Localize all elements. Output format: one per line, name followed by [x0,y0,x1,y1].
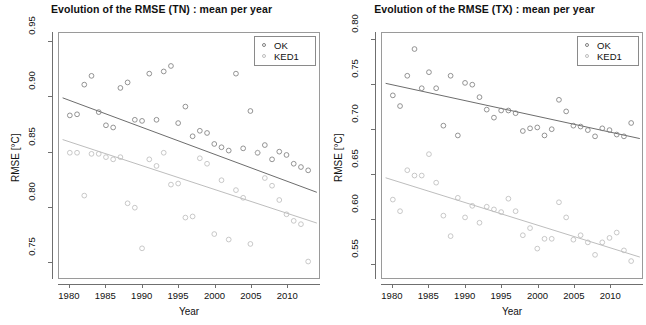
data-point-ked1 [427,152,432,157]
x-tick-label: 2000 [527,290,548,301]
data-point-ok [154,117,159,122]
data-point-ok [448,73,453,78]
y-tick-label: 0.70 [349,99,360,129]
data-point-ked1 [434,180,439,185]
data-point-ok [520,129,525,134]
data-point-ked1 [226,237,231,242]
data-point-ok [226,148,231,153]
data-point-ok [132,117,137,122]
data-point-ked1 [197,156,202,161]
data-point-ok [82,82,87,87]
data-point-ked1 [506,196,511,201]
data-point-ok [270,157,275,162]
y-tick [371,39,375,40]
y-tick-label: 0.85 [26,121,37,151]
y-axis-title-tn: RMSE [°C] [10,133,21,181]
plot-area-tn [58,32,320,279]
plot-canvas-tn [59,33,319,278]
x-axis-title-tn: Year [179,306,199,317]
data-point-ok [306,168,311,173]
x-tick-label: 1990 [131,290,152,301]
data-point-ok [470,82,475,87]
trend-line-ked1 [386,178,640,257]
data-point-ok [419,86,424,91]
data-point-ok [455,133,460,138]
x-tick-label: 1985 [418,290,439,301]
legend-tx: OK KED1 [577,36,639,66]
y-tick-label: 0.75 [349,54,360,84]
data-point-ok [441,123,446,128]
data-point-ok [219,145,224,150]
x-tick-label: 2005 [563,290,584,301]
data-point-ked1 [205,161,210,166]
data-point-ok [176,121,181,126]
data-point-ked1 [405,168,410,173]
data-point-ked1 [557,200,562,205]
data-point-ok [277,149,282,154]
data-point-ked1 [492,207,497,212]
data-point-ok [528,126,533,131]
open-circle-icon [260,40,271,51]
data-point-ked1 [104,155,109,160]
data-point-ok [578,124,583,129]
data-point-ked1 [241,195,246,200]
x-tick-label: 2010 [277,290,298,301]
y-tick-label: 0.95 [26,10,37,40]
data-point-ok [125,80,130,85]
data-point-ked1 [535,246,540,251]
x-tick-label: 2005 [240,290,261,301]
data-point-ok [492,115,497,120]
data-point-ked1 [600,240,605,245]
x-tick [428,284,429,288]
data-point-ked1 [306,259,311,264]
data-point-ok [434,86,439,91]
data-point-ked1 [82,193,87,198]
data-point-ok [111,125,116,130]
data-point-ok [484,107,489,112]
legend-item-ok: OK [583,40,631,51]
data-point-ok [564,109,569,114]
data-point-ok [147,71,152,76]
y-tick [48,41,52,42]
y-tick [371,219,375,220]
data-point-ked1 [291,218,296,223]
x-tick [465,284,466,288]
data-point-ked1 [67,150,72,155]
x-tick [69,284,70,288]
data-point-ked1 [89,151,94,156]
y-tick-label: 0.65 [349,143,360,173]
data-point-ked1 [549,236,554,241]
data-point-ok [463,81,468,86]
data-point-ked1 [463,215,468,220]
data-point-ok [67,113,72,118]
plot-area-tx [381,32,643,279]
y-axis-line [375,32,376,279]
data-point-ked1 [132,205,137,210]
y-tick [48,262,52,263]
x-axis-line [58,284,320,285]
data-point-ked1 [448,234,453,239]
x-tick [215,284,216,288]
legend-label-ked1: KED1 [271,51,299,62]
data-point-ok [390,93,395,98]
open-circle-icon [583,40,594,51]
data-point-ok [75,112,80,117]
x-tick [501,284,502,288]
chart-panel-tx: Evolution of the RMSE (TX) : mean per ye… [323,0,646,325]
data-point-ok [477,95,482,100]
data-point-ok [234,71,239,76]
data-point-ked1 [299,222,304,227]
data-point-ok [104,123,109,128]
data-point-ked1 [262,176,267,181]
data-point-ked1 [111,157,116,162]
x-tick [251,284,252,288]
x-tick [178,284,179,288]
data-point-ok [212,142,217,147]
data-point-ked1 [520,233,525,238]
data-point-ked1 [176,181,181,186]
x-tick-label: 1990 [454,290,475,301]
data-point-ok [291,161,296,166]
y-tick [371,129,375,130]
data-point-ked1 [125,201,130,206]
data-point-ked1 [607,236,612,241]
